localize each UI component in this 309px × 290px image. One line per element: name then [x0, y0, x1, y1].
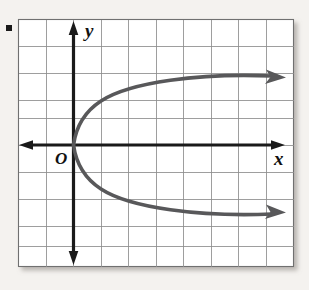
figure-page: y x O: [0, 0, 309, 290]
origin-label: O: [55, 149, 67, 168]
x-axis-label: x: [273, 148, 284, 169]
y-axis-label: y: [83, 20, 94, 41]
list-bullet-marker: [6, 25, 12, 31]
parabola-figure: y x O: [0, 0, 309, 290]
